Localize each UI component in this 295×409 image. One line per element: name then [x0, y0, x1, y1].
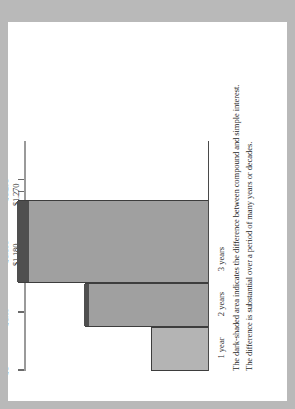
bar-segment-simple — [152, 328, 208, 370]
axis-tick-label: $1.295 — [8, 179, 10, 201]
bar-3-years[interactable] — [18, 200, 209, 283]
bar-segment-difference — [84, 284, 89, 326]
category-label-1-year: 1 year — [216, 331, 226, 365]
bar-segment-difference — [17, 201, 29, 282]
bar-segment-compound — [29, 201, 208, 282]
axis-tick — [18, 370, 24, 372]
axis-tick — [18, 179, 24, 181]
axis-tick-label: $1 — [8, 367, 10, 375]
baseline-axis — [208, 141, 210, 371]
bar-2-years[interactable] — [85, 283, 210, 327]
axis-tick-label: $1.09 — [8, 308, 10, 326]
bar-1-year[interactable] — [151, 327, 209, 371]
chart-stage: $1 $1.09 $1.180 $1.188 $1.270 $1.295 — [8, 22, 287, 401]
axis-tick — [18, 311, 24, 313]
bar-segment-compound — [89, 284, 208, 326]
plot-area: 1 year 2 years 3 years — [34, 141, 209, 371]
axis-tick-label: $1.188 — [8, 241, 10, 263]
category-label-2-years: 2 years — [216, 287, 226, 321]
figure-page: $1 $1.09 $1.180 $1.188 $1.270 $1.295 — [8, 22, 287, 401]
category-label-3-years: 3 years — [216, 242, 226, 276]
figure-caption: The dark-shaded area indicates the diffe… — [230, 71, 255, 371]
